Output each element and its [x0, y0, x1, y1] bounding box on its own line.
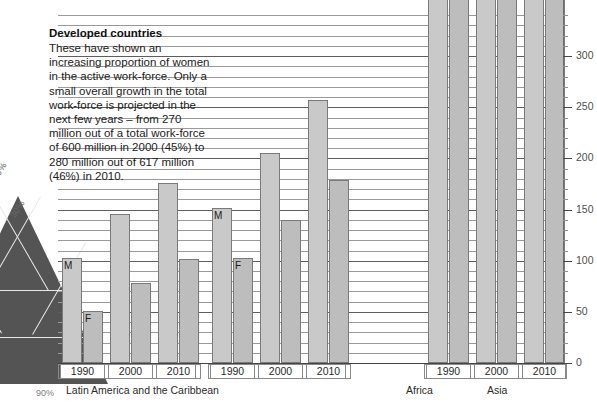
- axis-tick-minor: [563, 77, 568, 78]
- region-label: Africa: [406, 384, 433, 396]
- axis-tick-minor: [563, 220, 568, 221]
- axis-tick-minor: [563, 343, 568, 344]
- year-label-2000: 2000: [474, 364, 519, 379]
- axis-tick-minor: [563, 36, 568, 37]
- intro-textblock: Developed countries These have shown an …: [49, 26, 215, 183]
- year-label-2010: 2010: [156, 364, 201, 379]
- axis-tick-label: 200: [576, 152, 594, 162]
- axis-tick-label: 150: [576, 204, 594, 214]
- axis-tick-minor: [563, 322, 568, 323]
- axis-tick-label: 300: [576, 50, 594, 60]
- bar-female-latin-2000: [131, 283, 151, 363]
- chart-canvas: 30% 30% 90% MFMF 199020002010Latin Ameri…: [0, 0, 597, 405]
- bar-male-latin-2000: [110, 214, 130, 363]
- axis-tick-minor: [563, 128, 568, 129]
- region-label: Asia: [487, 384, 507, 396]
- axis-tick-label: 0: [576, 357, 582, 367]
- bar-female-asia-2010: [545, 0, 565, 363]
- bar-male-africa-1990: M: [212, 208, 232, 364]
- intro-title: Developed countries: [49, 26, 215, 40]
- region-label: Latin America and the Caribbean: [66, 384, 219, 396]
- axis-tick-major: [563, 107, 572, 108]
- axis-tick-minor: [563, 66, 568, 67]
- year-label-1990: 1990: [210, 364, 255, 379]
- bar-tag-female: F: [235, 261, 241, 271]
- bar-tag-male: M: [64, 261, 72, 271]
- value-axis: 050100150200250300: [563, 0, 597, 372]
- axis-tick-minor: [563, 169, 568, 170]
- bar-male-asia-1990: [428, 0, 448, 363]
- axis-tick-minor: [563, 138, 568, 139]
- bar-tag-male: M: [214, 211, 222, 221]
- axis-tick-minor: [563, 240, 568, 241]
- axis-tick-minor: [563, 46, 568, 47]
- bar-tag-female: F: [85, 314, 91, 324]
- year-label-1990: 1990: [426, 364, 471, 379]
- bar-female-latin-1990: F: [83, 311, 103, 363]
- bar-male-asia-2000: [476, 0, 496, 363]
- year-label-2000: 2000: [108, 364, 153, 379]
- axis-tick-label: 50: [576, 306, 588, 316]
- axis-tick-minor: [563, 230, 568, 231]
- axis-tick-minor: [563, 251, 568, 252]
- region-box: [208, 364, 346, 379]
- year-label-2010: 2010: [306, 364, 351, 379]
- axis-tick-minor: [563, 271, 568, 272]
- axis-tick-major: [563, 210, 572, 211]
- axis-tick-major: [563, 312, 572, 313]
- region-box: [424, 364, 566, 379]
- bar-male-asia-2010: [524, 0, 544, 363]
- axis-tick-minor: [563, 148, 568, 149]
- axis-tick-minor: [563, 179, 568, 180]
- axis-tick-minor: [563, 87, 568, 88]
- bar-female-asia-1990: [449, 0, 469, 363]
- bar-male-africa-2010: [308, 100, 328, 363]
- axis-tick-minor: [563, 15, 568, 16]
- ternary-label-90: 90%: [36, 388, 54, 398]
- axis-tick-minor: [563, 97, 568, 98]
- axis-tick-minor: [563, 25, 568, 26]
- axis-spine: [563, 0, 564, 364]
- axis-tick-major: [563, 56, 572, 57]
- axis-tick-major: [563, 363, 572, 364]
- axis-tick-minor: [563, 302, 568, 303]
- axis-tick-major: [563, 158, 572, 159]
- bar-female-africa-1990: F: [233, 258, 253, 363]
- bar-male-latin-1990: M: [62, 258, 82, 363]
- axis-tick-minor: [563, 281, 568, 282]
- year-label-2010: 2010: [522, 364, 567, 379]
- intro-body: These have shown an increasing proportio…: [49, 41, 215, 183]
- axis-tick-minor: [563, 291, 568, 292]
- bar-female-africa-2010: [329, 180, 349, 363]
- axis-tick-label: 250: [576, 101, 594, 111]
- axis-tick-major: [563, 261, 572, 262]
- bar-female-africa-2000: [281, 220, 301, 363]
- axis-tick-minor: [563, 189, 568, 190]
- year-label-2000: 2000: [258, 364, 303, 379]
- axis-tick-minor: [563, 353, 568, 354]
- axis-tick-minor: [563, 118, 568, 119]
- axis-tick-label: 100: [576, 255, 594, 265]
- bar-male-latin-2010: [158, 183, 178, 363]
- axis-tick-minor: [563, 199, 568, 200]
- bar-male-africa-2000: [260, 153, 280, 363]
- axis-tick-minor: [563, 332, 568, 333]
- bar-female-asia-2000: [497, 0, 517, 363]
- bar-female-latin-2010: [179, 259, 199, 363]
